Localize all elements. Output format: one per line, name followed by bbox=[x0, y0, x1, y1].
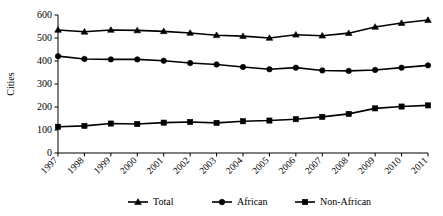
data-point-circle bbox=[372, 67, 377, 72]
x-tick-label: 1998 bbox=[65, 155, 86, 176]
x-tick-label: 2003 bbox=[197, 155, 218, 176]
x-tick-label: 2008 bbox=[330, 155, 351, 176]
data-point-square bbox=[293, 117, 298, 122]
legend-label: Total bbox=[153, 196, 174, 207]
series-layer bbox=[55, 17, 432, 130]
data-point-circle bbox=[240, 64, 245, 69]
data-point-circle bbox=[219, 199, 225, 205]
data-point-circle bbox=[55, 53, 60, 58]
chart-legend: TotalAfricanNon-African bbox=[128, 196, 371, 207]
x-tick-label: 2006 bbox=[277, 155, 298, 176]
data-point-circle bbox=[214, 62, 219, 67]
legend-label: African bbox=[237, 196, 268, 207]
legend-item-african[interactable]: African bbox=[212, 196, 268, 207]
x-tick-label: 1997 bbox=[39, 155, 60, 176]
x-axis: 1997199819992000200120022003200420052006… bbox=[39, 153, 430, 176]
y-axis: 0100200300400500600 bbox=[37, 9, 58, 158]
x-tick-label: 2009 bbox=[356, 155, 377, 176]
x-tick-label: 2005 bbox=[250, 155, 271, 176]
data-point-square bbox=[135, 121, 140, 126]
y-tick-label: 300 bbox=[37, 78, 52, 89]
data-point-circle bbox=[267, 67, 272, 72]
data-point-circle bbox=[108, 57, 113, 62]
data-point-circle bbox=[161, 58, 166, 63]
data-point-square bbox=[161, 120, 166, 125]
y-tick-label: 200 bbox=[37, 101, 52, 112]
data-point-square bbox=[320, 114, 325, 119]
data-point-square bbox=[108, 121, 113, 126]
data-point-square bbox=[425, 103, 430, 108]
data-point-circle bbox=[346, 68, 351, 73]
data-point-circle bbox=[399, 65, 404, 70]
x-tick-label: 1999 bbox=[92, 155, 113, 176]
x-tick-label: 2004 bbox=[224, 155, 245, 176]
series-african bbox=[55, 53, 430, 73]
data-point-circle bbox=[187, 60, 192, 65]
x-tick-label: 2001 bbox=[145, 155, 166, 176]
data-point-square bbox=[399, 104, 404, 109]
data-point-square bbox=[240, 119, 245, 124]
y-axis-title: Cities bbox=[5, 72, 16, 95]
data-point-square bbox=[55, 124, 60, 129]
data-point-square bbox=[302, 199, 307, 204]
data-point-circle bbox=[82, 56, 87, 61]
line-chart: 0100200300400500600 19971998199920002001… bbox=[0, 0, 443, 216]
chart-container: 0100200300400500600 19971998199920002001… bbox=[0, 0, 443, 216]
data-point-circle bbox=[320, 68, 325, 73]
data-point-square bbox=[267, 118, 272, 123]
y-tick-label: 500 bbox=[37, 32, 52, 43]
y-tick-label: 100 bbox=[37, 124, 52, 135]
x-tick-label: 2000 bbox=[118, 155, 139, 176]
legend-item-non-african[interactable]: Non-African bbox=[295, 196, 371, 207]
legend-label: Non-African bbox=[320, 196, 371, 207]
series-non-african bbox=[55, 103, 430, 130]
series-total bbox=[55, 17, 432, 41]
x-tick-label: 2011 bbox=[409, 155, 429, 175]
data-point-square bbox=[346, 111, 351, 116]
data-point-circle bbox=[293, 65, 298, 70]
data-point-square bbox=[214, 120, 219, 125]
data-point-square bbox=[373, 106, 378, 111]
x-tick-label: 2010 bbox=[382, 155, 403, 176]
x-tick-label: 2007 bbox=[303, 155, 324, 176]
data-point-square bbox=[188, 119, 193, 124]
data-point-circle bbox=[135, 57, 140, 62]
x-tick-label: 2002 bbox=[171, 155, 192, 176]
data-point-square bbox=[82, 123, 87, 128]
y-tick-label: 400 bbox=[37, 55, 52, 66]
legend-item-total[interactable]: Total bbox=[128, 196, 174, 207]
y-tick-label: 600 bbox=[37, 9, 52, 20]
data-point-circle bbox=[425, 63, 430, 68]
